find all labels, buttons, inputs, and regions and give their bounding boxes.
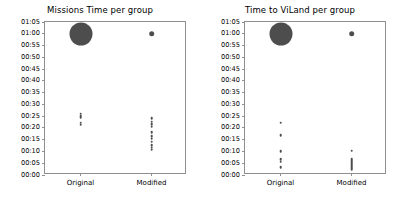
y-axis-tick-mark [42, 116, 45, 117]
scatter-point [279, 134, 282, 137]
y-axis-tick-label: 00:30 [21, 100, 40, 109]
y-axis-tick-mark [42, 69, 45, 70]
y-axis-tick-label: 00:25 [21, 112, 40, 121]
scatter-point [279, 166, 282, 169]
y-axis-tick-label: 00:30 [221, 100, 240, 109]
y-axis-tick-label: 00:00 [221, 171, 240, 180]
y-axis-tick-label: 00:25 [221, 112, 240, 121]
y-axis-tick-label: 00:00 [21, 171, 40, 180]
y-axis-tick-mark [242, 57, 245, 58]
y-axis-tick-mark [242, 151, 245, 152]
y-axis-tick-mark [242, 69, 245, 70]
y-axis-tick-mark [42, 80, 45, 81]
panel-title: Time to ViLand per group [200, 5, 400, 15]
y-axis-tick-mark [42, 33, 45, 34]
y-axis-tick-mark [242, 175, 245, 176]
scatter-point [79, 123, 82, 126]
plot-area: 00:0000:0500:1000:1500:2000:2500:3000:35… [44, 21, 186, 174]
y-axis-tick-label: 00:10 [221, 147, 240, 156]
y-axis-tick-mark [42, 163, 45, 164]
y-axis-tick-mark [242, 127, 245, 128]
y-axis-tick-label: 00:40 [221, 76, 240, 85]
y-axis-tick-label: 00:45 [221, 65, 240, 74]
scatter-point [150, 148, 153, 151]
y-axis-tick-mark [42, 57, 45, 58]
scatter-point [150, 117, 153, 120]
y-axis-tick-label: 00:35 [221, 88, 240, 97]
y-axis-tick-mark [242, 139, 245, 140]
scatter-point [349, 31, 355, 37]
x-axis-tick-label: Original [267, 179, 294, 187]
y-axis-tick-label: 01:00 [21, 29, 40, 38]
y-axis-tick-label: 01:05 [21, 18, 40, 27]
chart-panel-missions-time: Missions Time per group 00:0000:0500:100… [0, 0, 200, 198]
y-axis-tick-mark [242, 80, 245, 81]
y-axis-tick-label: 00:45 [21, 65, 40, 74]
y-axis-tick-label: 00:10 [21, 147, 40, 156]
y-axis-tick-mark [42, 127, 45, 128]
x-axis-tick-label: Modified [137, 179, 167, 187]
y-axis-tick-mark [42, 139, 45, 140]
y-axis-tick-label: 01:05 [221, 18, 240, 27]
y-axis-tick-label: 00:05 [221, 159, 240, 168]
scatter-point [269, 22, 292, 45]
scatter-point [350, 149, 353, 152]
scatter-point [279, 121, 282, 124]
y-axis-tick-mark [242, 45, 245, 46]
x-axis-tick-mark [351, 173, 352, 176]
y-axis-tick-label: 00:55 [21, 41, 40, 50]
scatter-point [149, 31, 155, 37]
y-axis-tick-mark [42, 151, 45, 152]
scatter-point [150, 140, 153, 143]
x-axis-tick-label: Original [67, 179, 94, 187]
scatter-point [279, 161, 282, 164]
y-axis-tick-mark [242, 33, 245, 34]
scatter-point [69, 22, 92, 45]
y-axis-tick-mark [242, 104, 245, 105]
y-axis-tick-label: 01:00 [221, 29, 240, 38]
y-axis-tick-mark [242, 163, 245, 164]
y-axis-tick-mark [42, 175, 45, 176]
scatter-point [350, 169, 353, 172]
x-axis-tick-mark [80, 173, 81, 176]
plot-area: 00:0000:0500:1000:1500:2000:2500:3000:35… [244, 21, 386, 174]
y-axis-tick-label: 00:50 [221, 53, 240, 62]
y-axis-tick-label: 00:50 [21, 53, 40, 62]
y-axis-tick-label: 00:40 [21, 76, 40, 85]
y-axis-tick-label: 00:35 [21, 88, 40, 97]
y-axis-tick-mark [42, 92, 45, 93]
y-axis-tick-label: 00:15 [221, 135, 240, 144]
scatter-point [150, 125, 153, 128]
scatter-point [79, 116, 82, 119]
y-axis-tick-mark [242, 92, 245, 93]
y-axis-tick-label: 00:20 [21, 123, 40, 132]
y-axis-tick-mark [42, 104, 45, 105]
y-axis-tick-label: 00:05 [21, 159, 40, 168]
y-axis-tick-mark [242, 22, 245, 23]
y-axis-tick-label: 00:20 [221, 123, 240, 132]
y-axis-tick-mark [42, 45, 45, 46]
y-axis-tick-mark [42, 22, 45, 23]
x-axis-tick-mark [280, 173, 281, 176]
y-axis-tick-mark [242, 116, 245, 117]
y-axis-tick-label: 00:15 [21, 135, 40, 144]
y-axis-tick-label: 00:55 [221, 41, 240, 50]
scatter-point [279, 150, 282, 153]
panel-title: Missions Time per group [0, 5, 200, 15]
scatter-point [150, 131, 153, 134]
x-axis-tick-mark [151, 173, 152, 176]
chart-panel-time-to-viland: Time to ViLand per group 00:0000:0500:10… [200, 0, 400, 198]
x-axis-tick-label: Modified [337, 179, 367, 187]
figure-canvas: Missions Time per group 00:0000:0500:100… [0, 0, 400, 198]
